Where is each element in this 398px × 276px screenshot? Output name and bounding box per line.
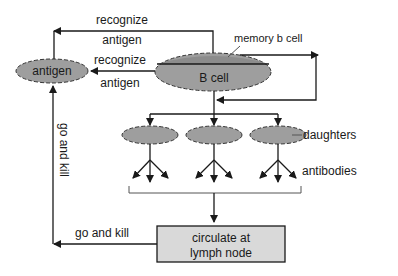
lymph-node-label-1: circulate at bbox=[192, 231, 251, 245]
antibodies-label: antibodies bbox=[302, 164, 357, 178]
antibodies-group-2 bbox=[196, 144, 232, 182]
lymph-node-box: circulate at lymph node bbox=[157, 226, 285, 262]
b-cell-immune-response-diagram: antigen B cell memory b cell recognize a… bbox=[0, 0, 398, 276]
go-and-kill-vertical-label: go and kill bbox=[57, 123, 71, 177]
lymph-node-label-2: lymph node bbox=[190, 246, 252, 260]
daughters-label: daughters bbox=[303, 128, 356, 142]
recognize-mid-label-1: recognize bbox=[94, 53, 146, 67]
daughter-cell-2 bbox=[186, 126, 242, 144]
antibodies-group-3 bbox=[260, 144, 296, 182]
b-cell-label: B cell bbox=[199, 71, 228, 85]
recognize-top-label-2: antigen bbox=[102, 33, 141, 47]
antibodies-bracket bbox=[129, 186, 301, 193]
go-and-kill-bottom-label: go and kill bbox=[75, 226, 129, 240]
b-cell-node: B cell bbox=[155, 53, 271, 91]
daughter-cell-1 bbox=[122, 126, 178, 144]
antigen-node: antigen bbox=[16, 59, 88, 83]
recognize-mid-label-2: antigen bbox=[100, 76, 139, 90]
antibodies-group-1 bbox=[133, 144, 168, 182]
recognize-top-label-1: recognize bbox=[96, 13, 148, 27]
antigen-label: antigen bbox=[32, 64, 71, 78]
memory-b-cell-label: memory b cell bbox=[234, 32, 302, 44]
